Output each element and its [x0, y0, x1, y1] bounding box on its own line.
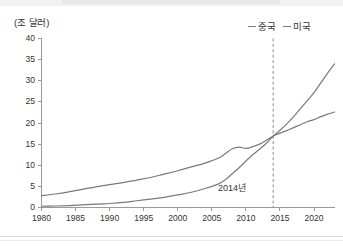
y-axis-ticks: [38, 39, 42, 208]
x-tick-label: 2015: [263, 213, 297, 223]
x-tick-label: 2020: [297, 213, 331, 223]
series-line-usa: [42, 112, 335, 196]
chart-plot-area: [0, 0, 343, 246]
y-tick-label: 35: [13, 54, 35, 64]
x-tick-label: 2010: [229, 213, 263, 223]
x-axis-ticks: [42, 208, 315, 212]
y-tick-label: 20: [13, 118, 35, 128]
y-tick-label: 0: [13, 202, 35, 212]
x-tick-label: 1990: [93, 213, 127, 223]
x-tick-label: 1995: [127, 213, 161, 223]
x-tick-label: 2005: [195, 213, 229, 223]
y-tick-label: 15: [13, 139, 35, 149]
y-tick-label: 10: [13, 160, 35, 170]
series-line-china: [42, 64, 335, 206]
chart-page: (조 달러) 중국 미국 2014년 0510152025303540 1980…: [0, 0, 343, 246]
y-tick-label: 30: [13, 75, 35, 85]
x-tick-label: 2000: [161, 213, 195, 223]
y-tick-label: 40: [13, 33, 35, 43]
bottom-divider-secondary: [0, 240, 343, 241]
bottom-divider: [0, 236, 343, 237]
x-tick-label: 1985: [59, 213, 93, 223]
x-tick-label: 1980: [25, 213, 59, 223]
y-tick-label: 5: [13, 181, 35, 191]
annotation-label-2014: 2014년: [218, 181, 246, 194]
y-tick-label: 25: [13, 96, 35, 106]
